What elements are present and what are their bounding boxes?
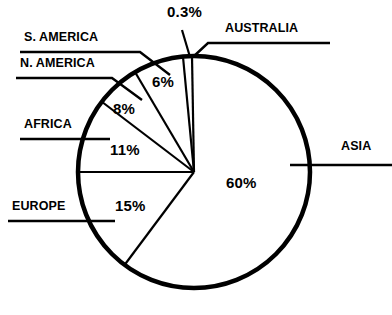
slice-callout-label-australia: AUSTRALIA	[225, 22, 298, 35]
slice-callout-label-n-america: N. AMERICA	[20, 57, 95, 70]
slice-value-label-australia: 0.3%	[167, 4, 202, 19]
callout-line-australia	[193, 43, 330, 57]
callout-line-australia-value	[182, 30, 190, 57]
slice-callout-label-europe: EUROPE	[12, 200, 65, 213]
slice-value-label-s-america: 6%	[152, 74, 174, 89]
slice-value-label-europe: 15%	[115, 198, 146, 213]
slice-value-label-n-america: 8%	[113, 101, 135, 116]
slice-callout-label-s-america: S. AMERICA	[24, 31, 98, 44]
pie-chart-figure: S. AMERICA N. AMERICA AFRICA EUROPE AUST…	[0, 0, 392, 315]
slice-value-label-africa: 11%	[110, 142, 140, 157]
slice-value-label-asia: 60%	[226, 175, 257, 190]
slice-callout-label-asia: ASIA	[341, 140, 371, 153]
slice-callout-label-africa: AFRICA	[24, 118, 72, 131]
pie-chart-graphic	[0, 0, 392, 315]
